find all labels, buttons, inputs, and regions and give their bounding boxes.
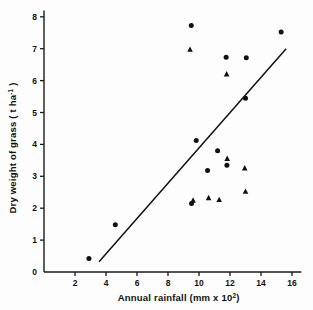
data-point-triangle — [187, 46, 193, 51]
plot-canvas: 012345678246810121416Annual rainfall (mm… — [0, 0, 313, 310]
y-tick-label: 1 — [32, 235, 37, 245]
x-tick-label: 2 — [73, 278, 78, 288]
data-point-circle — [194, 138, 199, 143]
data-point-triangle — [224, 156, 230, 161]
data-point-triangle — [224, 71, 230, 76]
y-tick-label: 3 — [32, 171, 37, 181]
regression-line — [99, 49, 286, 262]
data-point-triangle — [242, 165, 248, 170]
x-tick-label: 14 — [256, 278, 266, 288]
x-tick-label: 6 — [135, 278, 140, 288]
x-tick-label: 4 — [104, 278, 109, 288]
data-point-circle — [243, 96, 248, 101]
data-point-circle — [224, 163, 229, 168]
data-point-triangle — [190, 197, 196, 202]
y-tick-label: 4 — [32, 139, 37, 149]
x-tick-label: 12 — [225, 278, 235, 288]
data-point-triangle — [206, 195, 212, 200]
y-axis-title: Dry weight of grass ( t ha-1 ) — [7, 83, 19, 214]
data-point-circle — [224, 55, 229, 60]
data-point-circle — [189, 23, 194, 28]
y-tick-label: 6 — [32, 76, 37, 86]
scatter-plot-figure: 012345678246810121416Annual rainfall (mm… — [0, 0, 313, 310]
x-axis-title: Annual rainfall (mm x 102) — [118, 292, 240, 304]
data-point-triangle — [216, 197, 222, 202]
x-tick-label: 10 — [194, 278, 204, 288]
data-point-circle — [244, 55, 249, 60]
x-tick-label: 16 — [287, 278, 297, 288]
data-point-circle — [205, 168, 210, 173]
y-tick-label: 7 — [32, 44, 37, 54]
y-tick-label: 8 — [32, 12, 37, 22]
data-point-circle — [86, 256, 91, 261]
y-tick-label: 5 — [32, 108, 37, 118]
data-point-circle — [113, 222, 118, 227]
x-tick-label: 8 — [166, 278, 171, 288]
y-tick-label: 2 — [32, 203, 37, 213]
data-point-circle — [279, 30, 284, 35]
y-tick-label: 0 — [32, 267, 37, 277]
data-point-circle — [215, 148, 220, 153]
data-point-triangle — [243, 188, 249, 193]
